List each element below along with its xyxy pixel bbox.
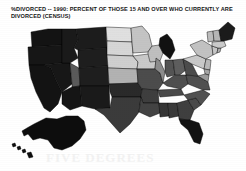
map-svg: [0, 20, 246, 171]
figure-container: %DIVORCED -- 1990: PERCENT OF THOSE 15 A…: [0, 0, 246, 171]
state-TN: [158, 89, 184, 97]
state-SD: [107, 41, 133, 56]
state-FL: [179, 119, 203, 144]
state-MS: [159, 103, 169, 117]
state-KS: [108, 68, 138, 84]
state-ME: [219, 22, 235, 41]
state-HI: [12, 143, 33, 158]
state-OR: [28, 45, 62, 65]
state-KY: [163, 75, 188, 89]
state-CO: [79, 66, 109, 86]
state-MN: [131, 26, 152, 53]
chart-title: %DIVORCED -- 1990: PERCENT OF THOSE 15 A…: [11, 6, 239, 21]
state-NM: [80, 86, 110, 109]
chart-title-line-2: DIVORCED (CENSUS): [11, 13, 239, 20]
state-OK: [109, 83, 142, 97]
state-WY: [78, 48, 108, 68]
state-ND: [106, 27, 132, 42]
chart-title-line-1: %DIVORCED -- 1990: PERCENT OF THOSE 15 A…: [11, 6, 239, 13]
state-AK: [22, 116, 86, 150]
state-WA: [31, 29, 62, 47]
us-choropleth-map: [0, 20, 246, 171]
state-MT: [74, 27, 107, 50]
state-AR: [141, 89, 159, 103]
state-NE: [107, 55, 138, 69]
